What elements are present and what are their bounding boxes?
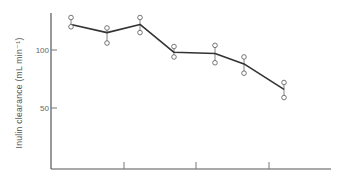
lower-marker [213, 60, 218, 65]
upper-marker [242, 55, 247, 60]
lower-marker [282, 95, 287, 100]
lower-marker [69, 25, 74, 30]
y-tick-label-100: 100 [36, 46, 50, 55]
y-tick-label-50: 50 [40, 104, 49, 113]
lower-marker [105, 41, 110, 46]
series-line [71, 24, 284, 89]
upper-marker [172, 44, 177, 49]
lower-marker [138, 30, 143, 35]
lower-marker [172, 55, 177, 60]
inulin-clearance-chart: 100 50 Inulin clearance (mL min⁻¹) [0, 0, 346, 181]
upper-marker [138, 15, 143, 20]
upper-marker [69, 15, 74, 20]
y-axis-label: Inulin clearance (mL min⁻¹) [14, 37, 24, 148]
series-layer [69, 15, 287, 100]
upper-marker [213, 43, 218, 48]
lower-marker [242, 71, 247, 76]
upper-marker [282, 80, 287, 85]
upper-marker [105, 26, 110, 31]
